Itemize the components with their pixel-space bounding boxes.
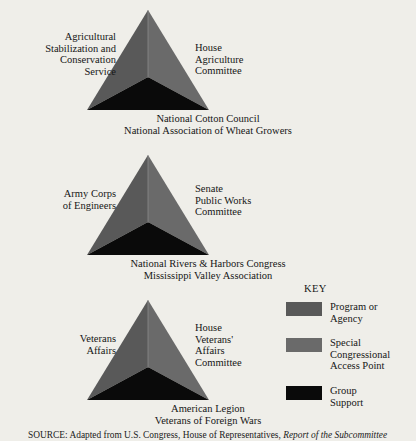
- source-text: : Adapted from U.S. Congress, House of R…: [65, 430, 283, 440]
- key-swatch-special-access: [286, 338, 322, 352]
- label-house-agriculture-committee: House Agriculture Committee: [195, 42, 315, 77]
- key-item-group-support: Group Support: [286, 385, 414, 408]
- triangle-agriculture: Agricultural Stabilization and Conservat…: [0, 0, 416, 150]
- label-army-corps-of-engineers: Army Corps of Engineers: [8, 188, 116, 211]
- key-title: KEY: [304, 283, 414, 294]
- source-prefix: SOURCE: [28, 430, 65, 440]
- figure-canvas: Agricultural Stabilization and Conservat…: [0, 0, 416, 441]
- key-legend: KEY Program or Agency Special Congressio…: [286, 283, 414, 408]
- label-agricultural-stabilization: Agricultural Stabilization and Conservat…: [8, 31, 116, 77]
- triangle-public-works: Army Corps of Engineers Senate Public Wo…: [0, 143, 416, 288]
- label-national-cotton-council: National Cotton Council National Associa…: [0, 113, 416, 136]
- source-title-italic: Report of the Subcommittee: [283, 430, 387, 440]
- label-senate-public-works-committee: Senate Public Works Committee: [195, 183, 315, 218]
- key-label-special-access: Special Congressional Access Point: [330, 337, 390, 372]
- label-veterans-affairs: Veterans Affairs: [8, 333, 116, 356]
- key-label-program-agency: Program or Agency: [330, 301, 378, 324]
- key-item-program-agency: Program or Agency: [286, 301, 414, 324]
- key-item-special-access: Special Congressional Access Point: [286, 337, 414, 372]
- key-label-group-support: Group Support: [330, 385, 363, 408]
- label-national-rivers-harbors-congress: National Rivers & Harbors Congress Missi…: [0, 258, 416, 281]
- source-note: SOURCE: Adapted from U.S. Congress, Hous…: [28, 430, 408, 441]
- key-swatch-group-support: [286, 386, 322, 400]
- key-swatch-program-agency: [286, 302, 322, 316]
